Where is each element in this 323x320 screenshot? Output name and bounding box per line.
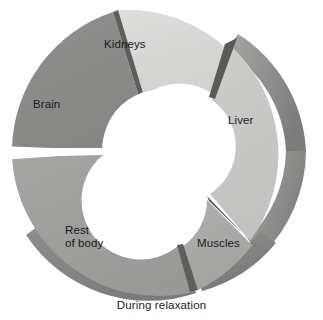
blood-flow-donut-chart: Kidneys Liver Muscles Rest of body Brain… — [0, 0, 323, 320]
donut-chart-svg — [0, 0, 323, 320]
donut-center-hole — [102, 90, 216, 212]
chart-caption: During relaxation — [0, 299, 323, 311]
